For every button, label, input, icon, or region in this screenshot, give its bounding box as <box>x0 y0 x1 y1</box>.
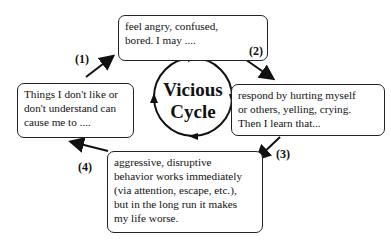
step-4-label: (4) <box>78 160 92 175</box>
step-4-line: (via attention, escape, etc.), <box>114 183 256 197</box>
step-3-line: respond by hurting myself <box>238 88 378 102</box>
step-4-line: my life worse. <box>114 211 256 225</box>
step-4-line: but in the long run it makes <box>114 197 256 211</box>
step-3-label: (3) <box>276 147 290 162</box>
step-4-line: behavior works immediately <box>114 169 256 183</box>
step-4-line: aggressive, disruptive <box>114 155 256 169</box>
step-1-line: cause me to .... <box>24 115 127 129</box>
step-1-line: don't understand can <box>24 101 127 115</box>
center-line-2: Cycle <box>148 101 238 123</box>
step-3-line: or others, yelling, crying. <box>238 102 378 116</box>
step-1-line: Things I don't like or <box>24 87 127 101</box>
center-line-1: Vicious <box>148 79 238 101</box>
step-1-label: (1) <box>75 52 89 67</box>
step-2-label: (2) <box>249 44 263 59</box>
step-2-line: bored. I may .... <box>125 33 261 47</box>
step-4-box: aggressive, disruptive behavior works im… <box>107 151 263 233</box>
step-3-line: Then I learn that... <box>238 116 378 130</box>
vicious-cycle-title: Vicious Cycle <box>148 79 238 123</box>
step-2-line: feel angry, confused, <box>125 19 261 33</box>
step-2-box: feel angry, confused, bored. I may .... <box>118 15 268 61</box>
step-3-box: respond by hurting myself or others, yel… <box>231 84 385 136</box>
step-1-box: Things I don't like or don't understand … <box>17 83 134 138</box>
